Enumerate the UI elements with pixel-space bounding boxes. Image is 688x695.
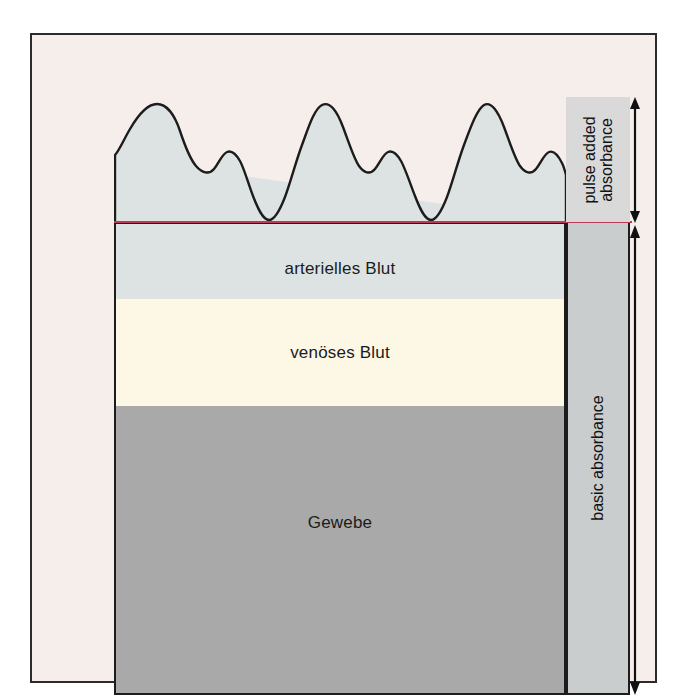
dimension-arrow-pulse-added: [628, 97, 642, 223]
strip-pulse-added-absorbance-label: pulse added absorbance: [581, 116, 616, 203]
strip-pulse-added-absorbance: pulse added absorbance: [566, 97, 630, 222]
strip-basic-absorbance-label: basic absorbance: [589, 395, 606, 520]
layer-venous-blood-label: venöses Blut: [290, 343, 390, 363]
absorbance-block: arterielles Blut venöses Blut Gewebe: [114, 222, 566, 695]
dc-reference-line: [114, 221, 632, 223]
pulse-waveform: [114, 97, 566, 224]
layer-tissue-label: Gewebe: [308, 513, 373, 533]
layer-arterial-blood: arterielles Blut: [114, 222, 566, 299]
pulse-waveform-curve: [115, 104, 566, 224]
layer-venous-blood: venöses Blut: [114, 299, 566, 406]
dimension-arrow-basic-absorbance: [628, 225, 642, 695]
layer-tissue: Gewebe: [114, 406, 566, 695]
figure-plate: arterielles Blut venöses Blut Gewebe pul…: [30, 33, 657, 683]
strip-basic-absorbance: basic absorbance: [566, 223, 630, 695]
layer-arterial-blood-label: arterielles Blut: [285, 259, 396, 279]
